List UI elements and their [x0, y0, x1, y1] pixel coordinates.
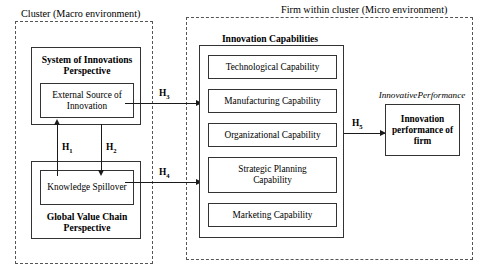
system-of-innovations-title: System of Innovations Perspective — [36, 54, 138, 76]
diagram-canvas: Cluster (Macro environment) Firm within … — [0, 0, 485, 276]
knowledge-spillover-box[interactable]: Knowledge Spillover — [40, 170, 134, 205]
h3-connector-line — [125, 103, 199, 104]
innovation-performance-box[interactable]: Innovation performance of firm — [385, 104, 460, 156]
h1-arrowhead-icon — [54, 119, 60, 125]
capability-manufacturing-label: Manufacturing Capability — [224, 96, 320, 107]
capability-strategic-planning-label: Strategic Planning Capability — [209, 164, 336, 186]
h2-sub: 2 — [113, 147, 116, 154]
innovation-capabilities-group: Technological Capability Manufacturing C… — [199, 45, 344, 238]
h4-connector-line — [125, 182, 199, 183]
capability-marketing-label: Marketing Capability — [233, 210, 313, 221]
external-source-of-innovation-label: External Source of Innovation — [41, 90, 133, 112]
h1-connector-line — [57, 124, 58, 176]
h1-label: H1 — [62, 142, 73, 156]
capability-technological-label: Technological Capability — [226, 62, 320, 73]
h5-connector-line — [344, 133, 385, 134]
h1-sub: 1 — [69, 147, 72, 154]
innovative-performance-caption: InnovativePerformance — [366, 90, 478, 101]
knowledge-spillover-label: Knowledge Spillover — [47, 182, 126, 193]
h4-sub: 4 — [166, 172, 169, 179]
capability-manufacturing-box[interactable]: Manufacturing Capability — [208, 89, 337, 113]
global-value-chain-group: Knowledge Spillover Global Value Chain P… — [31, 161, 141, 239]
h3-sub: 3 — [166, 93, 169, 100]
external-source-of-innovation-box[interactable]: External Source of Innovation — [40, 83, 134, 118]
global-value-chain-title: Global Value Chain Perspective — [36, 211, 138, 233]
capability-technological-box[interactable]: Technological Capability — [208, 55, 337, 79]
micro-environment-label: Firm within cluster (Micro environment) — [281, 4, 447, 15]
innovation-performance-label: Innovation performance of firm — [386, 114, 459, 147]
h2-label: H2 — [106, 142, 117, 156]
system-of-innovations-group: System of Innovations Perspective Extern… — [31, 47, 141, 125]
h5-label: H5 — [352, 118, 363, 132]
h4-label: H4 — [159, 167, 170, 181]
capability-strategic-planning-box[interactable]: Strategic Planning Capability — [208, 157, 337, 193]
innovation-capabilities-title: Innovation Capabilities — [200, 33, 340, 44]
h3-label: H3 — [159, 88, 170, 102]
capability-marketing-box[interactable]: Marketing Capability — [208, 203, 337, 227]
h5-sub: 5 — [359, 123, 362, 130]
capability-organizational-box[interactable]: Organizational Capability — [208, 123, 337, 147]
macro-environment-label: Cluster (Macro environment) — [21, 8, 140, 19]
capability-organizational-label: Organizational Capability — [224, 130, 320, 141]
h2-connector-line — [101, 124, 102, 172]
h2-arrowhead-icon — [98, 170, 104, 176]
